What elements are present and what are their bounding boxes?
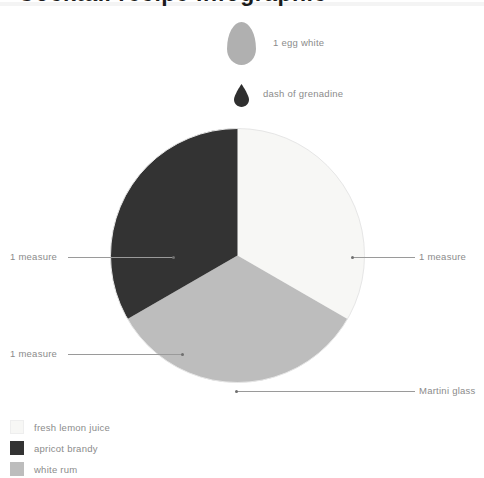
droplet-icon: [233, 84, 250, 107]
leader-line-white-rum: [68, 354, 183, 355]
leader-dot-white-rum: [181, 353, 184, 356]
egg-icon: [227, 22, 256, 65]
ingredient-egg-white-label: 1 egg white: [273, 37, 324, 48]
legend-label-apricot-brandy: apricot brandy: [34, 443, 98, 454]
legend-label-white-rum: white rum: [34, 464, 77, 475]
legend-item-white-rum: white rum: [10, 460, 230, 478]
legend-swatch-white-rum: [10, 462, 24, 476]
ingredient-grenadine: dash of grenadine: [225, 82, 445, 112]
leader-dot-apricot-brandy: [172, 256, 175, 259]
leader-dot-fresh-lemon-juice: [351, 256, 354, 259]
leader-line-fresh-lemon-juice: [353, 257, 415, 258]
callout-apricot-brandy-amount: 1 measure: [10, 251, 57, 262]
callout-glassware: Martini glass: [419, 385, 476, 396]
legend-swatch-apricot-brandy: [10, 441, 24, 455]
chart-legend: fresh lemon juice apricot brandy white r…: [10, 418, 230, 478]
infographic-canvas: Cocktail recipe infographic 1 egg white …: [0, 0, 484, 478]
callout-white-rum-amount: 1 measure: [10, 348, 57, 359]
leader-line-apricot-brandy: [68, 257, 174, 258]
ingredient-egg-white: 1 egg white: [225, 20, 425, 70]
leader-dot-glassware: [235, 390, 238, 393]
ingredient-grenadine-label: dash of grenadine: [263, 88, 343, 99]
pie-chart: [110, 128, 365, 383]
callout-fresh-lemon-juice-amount: 1 measure: [419, 251, 466, 262]
legend-label-fresh-lemon-juice: fresh lemon juice: [34, 422, 110, 433]
legend-item-fresh-lemon-juice: fresh lemon juice: [10, 418, 230, 439]
page-title: Cocktail recipe infographic: [18, 0, 327, 7]
legend-swatch-fresh-lemon-juice: [10, 420, 24, 434]
legend-item-apricot-brandy: apricot brandy: [10, 439, 230, 460]
leader-line-glassware: [237, 391, 415, 392]
page-title-strip: Cocktail recipe infographic: [0, 0, 484, 7]
